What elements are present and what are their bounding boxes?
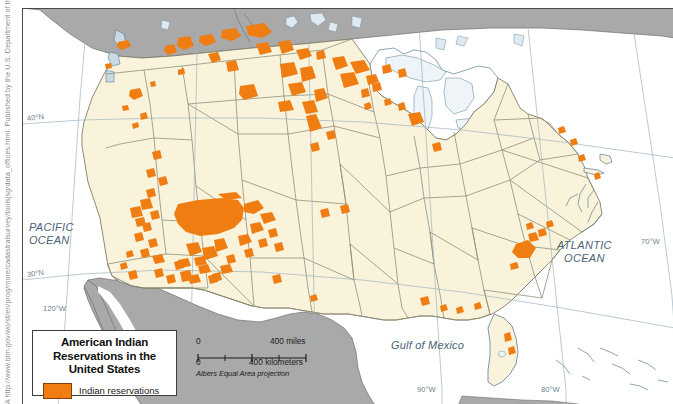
scalebar-miles-zero: 0 <box>196 336 201 346</box>
source-credit: A http://www.blm.gov/wo/st/en/prog/more/… <box>0 0 17 404</box>
legend-swatch-label: Indian reservations <box>79 385 159 396</box>
map-scalebar: 0 400 miles 0 400 kilometers Albers Equa… <box>196 336 331 378</box>
scalebar-miles-label: 400 miles <box>270 336 306 346</box>
scalebar-km-row: 0 400 kilometers <box>196 357 331 368</box>
scalebar-projection-note: Albers Equal Area projection <box>196 369 331 378</box>
scalebar-graphic <box>196 348 331 356</box>
lake-okeechobee <box>498 351 505 357</box>
legend-swatch-reservations <box>43 383 72 399</box>
legend-title-line2: Reservations in the <box>37 350 172 364</box>
scalebar-km-zero: 0 <box>196 357 201 367</box>
source-credit-text: A http://www.blm.gov/wo/st/en/prog/more/… <box>0 0 17 404</box>
map-figure: A http://www.blm.gov/wo/st/en/prog/more/… <box>0 0 673 404</box>
scalebar-km-label: 400 kilometers <box>249 357 303 367</box>
legend-title-line1: American Indian <box>37 336 172 350</box>
legend-entry-reservations: Indian reservations <box>37 383 172 399</box>
scalebar-miles-row: 0 400 miles <box>196 336 331 347</box>
legend-title: American Indian Reservations in the Unit… <box>37 336 172 377</box>
legend-title-line3: United States <box>37 363 172 377</box>
map-legend: American Indian Reservations in the Unit… <box>32 330 177 396</box>
